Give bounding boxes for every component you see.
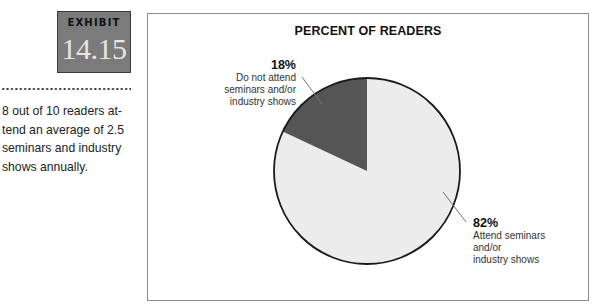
slice-description-line: Attend seminars [473,230,573,242]
slice-label-attend: 82% Attend seminars and/or industry show… [473,216,573,266]
slice-percent: 82% [473,216,573,230]
slice-description-line: Do not attend [210,72,296,84]
slice-description-line: seminars and/or [210,84,296,96]
slice-description-line: industry shows [473,254,573,266]
slice-description-line: industry shows [210,96,296,108]
slice-percent: 18% [210,58,296,72]
slice-description-line: and/or [473,242,573,254]
slice-label-do-not-attend: 18% Do not attend seminars and/or indust… [210,58,296,108]
